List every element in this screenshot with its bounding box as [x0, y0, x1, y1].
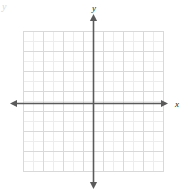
y-axis-bottom-arrowhead [90, 182, 97, 189]
x-axis-left-arrowhead [10, 100, 17, 107]
coordinate-plane-svg: x y [0, 0, 188, 192]
x-axis-right-arrowhead [161, 100, 168, 107]
y-axis-top-arrowhead [90, 14, 97, 21]
y-axis-label: y [91, 3, 96, 13]
x-axis-label: x [174, 99, 179, 109]
coordinate-plane-figure: y x y [0, 0, 188, 192]
